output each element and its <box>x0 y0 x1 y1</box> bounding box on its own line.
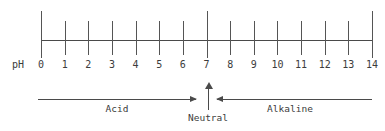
ph-tick-label-2: 2 <box>78 59 98 70</box>
ph-tick-label-5: 5 <box>149 59 169 70</box>
ph-tick-label-14: 14 <box>362 59 382 70</box>
ph-tick-label-4: 4 <box>126 59 146 70</box>
ph-tick-9 <box>254 21 255 55</box>
arrow-right-icon <box>190 96 197 102</box>
alkaline-arrow-shaft <box>217 99 372 100</box>
ph-scale-diagram: pH 01234567891011121314 Acid Neutral Alk… <box>0 0 385 131</box>
ph-tick-3 <box>112 21 113 55</box>
ph-tick-0 <box>41 11 42 58</box>
ph-tick-label-7: 7 <box>197 59 217 70</box>
ph-tick-label-8: 8 <box>220 59 240 70</box>
ph-tick-2 <box>88 21 89 55</box>
alkaline-arrow <box>217 99 372 100</box>
ph-tick-11 <box>301 21 302 55</box>
ph-tick-label-12: 12 <box>315 59 335 70</box>
arrow-left-icon <box>216 96 223 102</box>
ph-tick-13 <box>348 21 349 55</box>
ph-tick-label-13: 13 <box>338 59 358 70</box>
ph-tick-label-6: 6 <box>173 59 193 70</box>
ph-tick-label-11: 11 <box>291 59 311 70</box>
ph-tick-label-0: 0 <box>31 59 51 70</box>
ph-tick-5 <box>159 21 160 55</box>
alkaline-label: Alkaline <box>267 103 313 114</box>
ph-tick-6 <box>183 21 184 55</box>
acid-arrow <box>38 99 196 100</box>
ph-tick-1 <box>65 21 66 55</box>
neutral-label: Neutral <box>188 112 228 123</box>
ph-tick-label-1: 1 <box>55 59 75 70</box>
ph-tick-4 <box>136 21 137 55</box>
ph-axis-caption: pH <box>12 59 24 70</box>
ph-tick-label-10: 10 <box>267 59 287 70</box>
acid-arrow-shaft <box>38 99 196 100</box>
ph-tick-label-9: 9 <box>244 59 264 70</box>
ph-tick-8 <box>230 21 231 55</box>
acid-label: Acid <box>106 103 129 114</box>
ph-tick-label-3: 3 <box>102 59 122 70</box>
ph-tick-7 <box>207 11 208 58</box>
neutral-arrow-shaft <box>208 88 209 110</box>
ph-tick-10 <box>277 21 278 55</box>
ph-tick-12 <box>325 21 326 55</box>
ph-tick-14 <box>372 11 373 58</box>
